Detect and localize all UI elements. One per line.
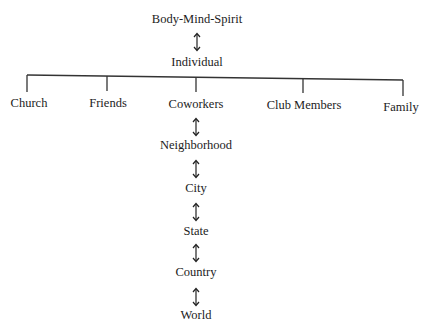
chain-city: City (185, 181, 207, 195)
bidirectional-arrow-icon (191, 202, 201, 222)
horizontal-branch-line (27, 75, 403, 80)
chain-neighborhood: Neighborhood (160, 138, 232, 152)
branch-friends: Friends (89, 96, 127, 110)
branch-coworkers: Coworkers (169, 97, 224, 111)
diagram-canvas: Body-Mind-Spirit Individual Church Frien… (0, 0, 430, 328)
bidirectional-arrow-icon (192, 32, 202, 52)
branch-family: Family (383, 100, 418, 114)
branch-club-members: Club Members (267, 98, 342, 112)
chain-country: Country (176, 265, 217, 279)
bidirectional-arrow-icon (191, 243, 201, 263)
individual-label: Individual (171, 55, 222, 69)
chain-state: State (184, 224, 209, 238)
body-mind-spirit-label: Body-Mind-Spirit (152, 12, 242, 26)
bidirectional-arrow-icon (191, 287, 201, 307)
bidirectional-arrow-icon (191, 117, 201, 137)
chain-world: World (181, 308, 212, 322)
bidirectional-arrow-icon (191, 159, 201, 179)
branch-church: Church (11, 96, 48, 110)
